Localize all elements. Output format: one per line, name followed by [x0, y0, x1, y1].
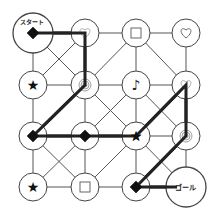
goal-label: ゴール — [175, 182, 196, 192]
node-note: ♪ — [122, 71, 150, 99]
start-label: スタート — [20, 17, 44, 26]
node-square — [71, 173, 99, 201]
music-note-icon: ♪ — [132, 77, 141, 93]
star-icon: ★ — [130, 128, 143, 144]
node-heart — [172, 19, 200, 47]
node-star: ★ — [19, 71, 47, 99]
star-icon: ★ — [27, 77, 40, 93]
node-star: ★ — [19, 173, 47, 201]
node-square — [122, 19, 150, 47]
star-icon: ★ — [27, 179, 40, 195]
